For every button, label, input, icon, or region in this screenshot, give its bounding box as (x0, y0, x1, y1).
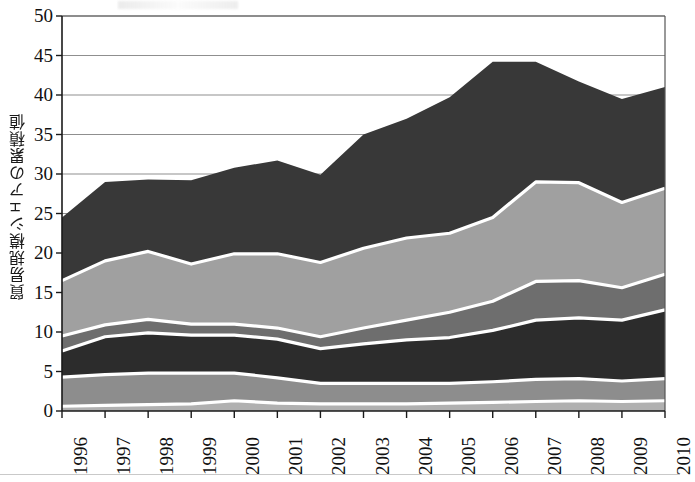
x-tick-marks (62, 411, 665, 418)
y-tick-marks (56, 16, 62, 411)
bottom-divider (0, 474, 680, 475)
